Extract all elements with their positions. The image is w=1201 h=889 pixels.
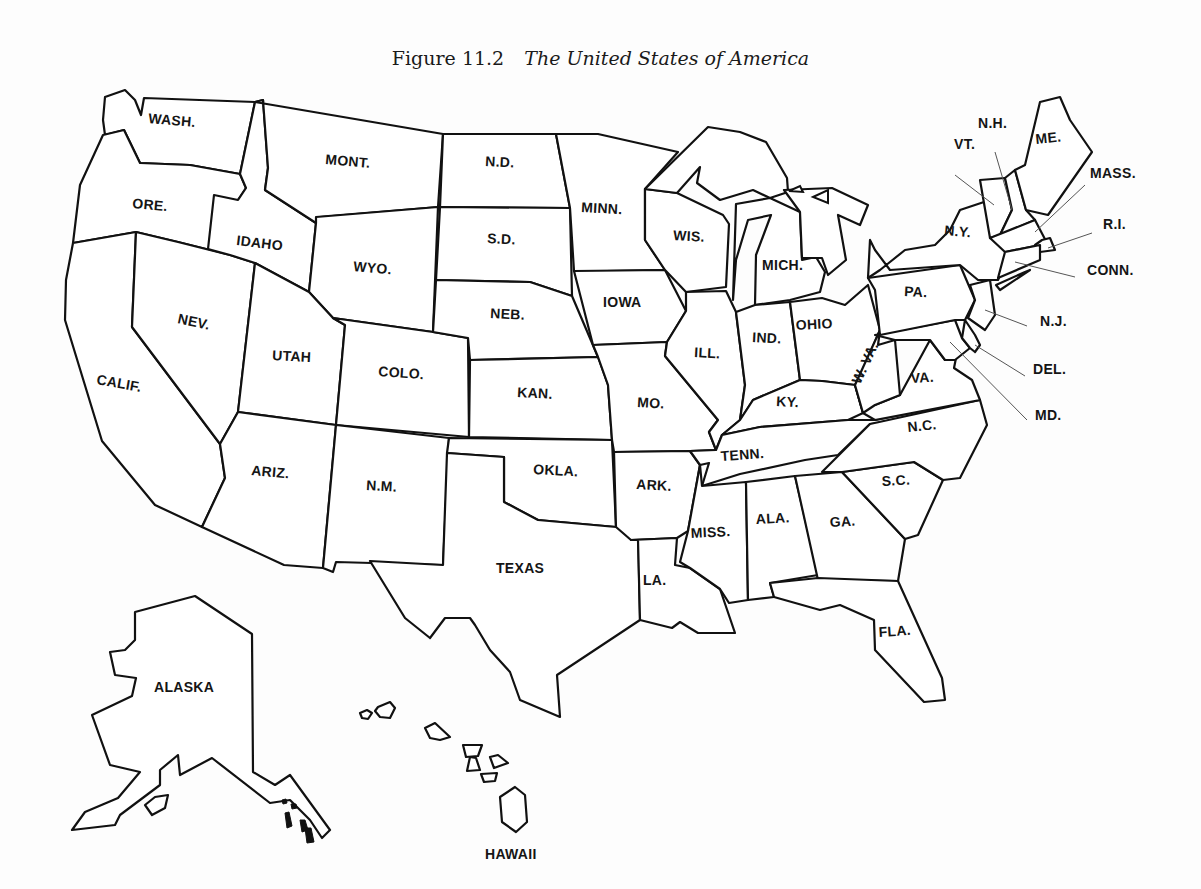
state-label-texas: TEXAS: [496, 560, 544, 576]
state-label-nj: N.J.: [1040, 313, 1067, 329]
state-label-nd: N.D.: [485, 153, 515, 171]
state-label-fla: FLA.: [878, 622, 911, 640]
alaska-island: [305, 828, 314, 843]
state-label-sc: S.C.: [881, 472, 910, 489]
state-nm[interactable]: [323, 425, 449, 572]
state-pa[interactable]: [868, 265, 975, 335]
state-label-iowa: IOWA: [603, 294, 642, 310]
state-label-nc: N.C.: [907, 416, 938, 435]
state-label-del: DEL.: [1033, 361, 1066, 377]
state-label-sd: S.D.: [487, 230, 516, 247]
state-ak_island[interactable]: [145, 795, 168, 815]
state-label-miss: MISS.: [690, 523, 730, 541]
state-label-ohio: OHIO: [795, 315, 833, 333]
state-label-conn: CONN.: [1087, 262, 1134, 278]
state-label-ri: R.I.: [1103, 216, 1126, 232]
alaska-island: [282, 799, 287, 804]
hawaii-island-2[interactable]: [375, 702, 395, 718]
state-label-nh: N.H.: [978, 115, 1007, 131]
state-label-ga: GA.: [829, 513, 856, 530]
state-alaska[interactable]: [72, 596, 330, 838]
state-label-hawaii: HAWAII: [485, 846, 537, 862]
state-label-ny: N.Y.: [944, 222, 972, 240]
hawaii-island-6[interactable]: [490, 755, 508, 768]
leader-line-ri: [1048, 233, 1092, 248]
state-label-ala: ALA.: [755, 509, 790, 527]
state-label-tenn: TENN.: [720, 445, 765, 464]
state-label-md: MD.: [1035, 407, 1062, 423]
state-label-alaska: ALASKA: [154, 679, 214, 695]
state-label-nj: N.J.: [0, 0, 27, 3]
leader-line-del: [975, 345, 1025, 376]
state-label-ind: IND.: [752, 329, 782, 347]
hawaii-island-8[interactable]: [500, 787, 527, 832]
state-label-ariz: ARIZ.: [251, 462, 290, 481]
state-label-wyo: WYO.: [353, 258, 393, 277]
hawaii-island-1[interactable]: [360, 710, 372, 719]
state-label-ore: ORE.: [132, 195, 169, 214]
us-states-map: WASH.ORE.CALIF.NEV.IDAHOMONT.WYO.UTAHCOL…: [0, 0, 1201, 889]
state-label-utah: UTAH: [272, 347, 312, 365]
hawaii-island-5[interactable]: [467, 757, 480, 771]
state-label-mich: MICH.: [762, 257, 803, 273]
state-label-me: ME.: [1035, 128, 1062, 147]
state-label-nm: N.M.: [366, 477, 398, 495]
state-label-okla: OKLA.: [533, 461, 579, 479]
alaska-island: [291, 804, 297, 809]
state-label-pa: PA.: [904, 283, 928, 300]
state-label-kan: KAN.: [517, 384, 553, 402]
state-label-minn: MINN.: [581, 199, 623, 217]
state-label-vt: VT.: [954, 136, 975, 152]
hawaii-island-7[interactable]: [481, 773, 497, 782]
state-label-ark: ARK.: [636, 476, 672, 494]
hawaii-island-4[interactable]: [463, 745, 482, 757]
hawaii-islands: [360, 702, 527, 832]
state-label-mo: MO.: [637, 394, 665, 411]
state-fla[interactable]: [770, 578, 945, 702]
state-label-va: VA.: [910, 369, 934, 386]
state-label-neb: NEB.: [490, 305, 525, 323]
state-label-mass: MASS.: [1090, 165, 1136, 181]
state-ark[interactable]: [614, 451, 700, 540]
alaska-island: [285, 812, 292, 828]
state-label-ky: KY.: [776, 393, 799, 410]
state-label-colo: COLO.: [378, 363, 425, 382]
state-label-ill: ILL.: [694, 344, 721, 361]
state-nj[interactable]: [968, 280, 995, 330]
mich-gap: [789, 186, 803, 192]
state-nd[interactable]: [440, 134, 570, 208]
state-me[interactable]: [1015, 97, 1092, 215]
hawaii-island-3[interactable]: [425, 723, 450, 740]
state-label-wis: WIS.: [673, 227, 705, 245]
state-label-la: LA.: [643, 572, 666, 588]
